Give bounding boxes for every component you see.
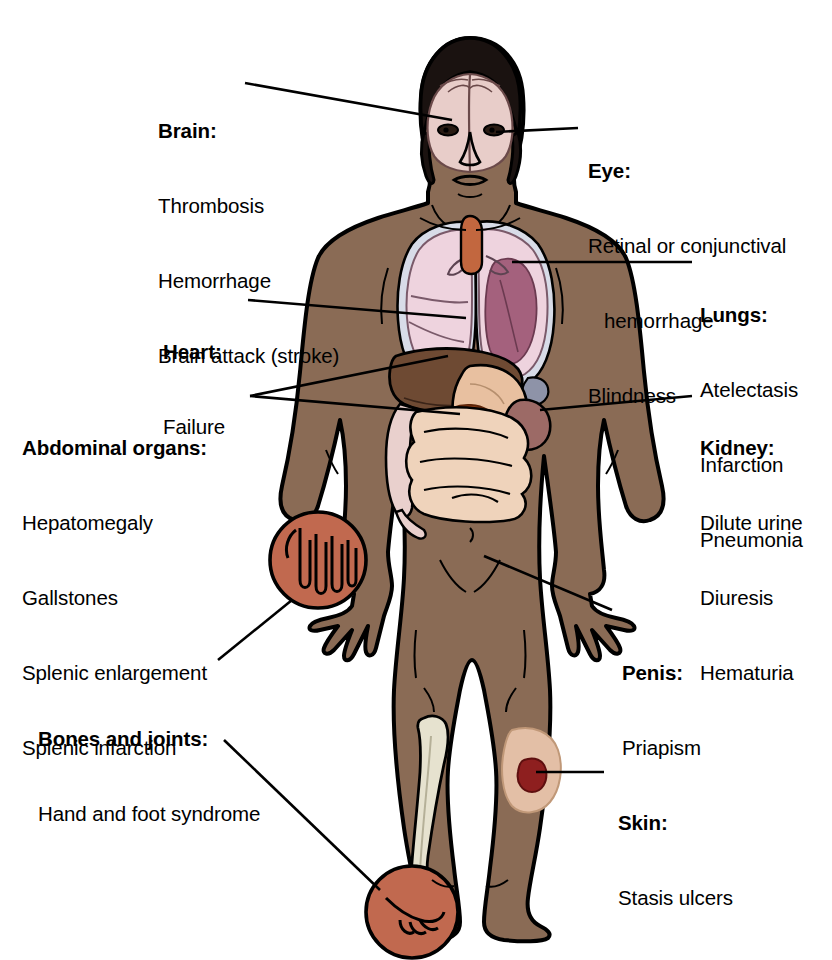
callout-skin-title: Skin:: [618, 810, 733, 835]
callout-skin-line-0: Stasis ulcers: [618, 885, 733, 910]
lower-leg-ulcer: [502, 728, 561, 812]
pupil-right: [489, 127, 494, 132]
callout-abdominal-organs-title: Abdominal organs:: [22, 435, 207, 460]
brain-central-sulcus: [469, 75, 470, 172]
foot-joint-circle: [366, 866, 458, 958]
pupil-left: [443, 127, 448, 132]
callout-kidney-line-1: Diuresis: [700, 585, 803, 610]
small-intestine: [406, 407, 531, 522]
callout-heart-title: Heart:: [163, 339, 225, 364]
callout-bones-and-joints-line-0: Hand and foot syndrome: [38, 801, 260, 826]
ulcer-center: [518, 758, 547, 792]
lung-infarction: [485, 259, 536, 365]
callout-abdominal-organs-line-0: Hepatomegaly: [22, 510, 207, 535]
callout-skin: Skin: Stasis ulcers: [618, 760, 733, 960]
callout-penis-title: Penis:: [622, 660, 701, 685]
callout-kidney-title: Kidney:: [700, 435, 803, 460]
callout-penis-line-0: Priapism: [622, 735, 701, 760]
callout-bones-and-joints-title: Bones and joints:: [38, 726, 260, 751]
callout-abdominal-organs-line-1: Gallstones: [22, 585, 207, 610]
brain-region: [428, 74, 513, 172]
callout-brain-line-0: Thrombosis: [158, 193, 339, 218]
callout-kidney-line-2: Hematuria: [700, 660, 803, 685]
callout-lungs-title: Lungs:: [700, 302, 803, 327]
trachea: [461, 216, 482, 274]
callout-bones-and-joints: Bones and joints: Hand and foot syndrome: [38, 676, 260, 876]
callout-eye-title: Eye:: [588, 158, 786, 183]
leader-bones: [218, 600, 292, 660]
callout-kidney: Kidney: Dilute urine Diuresis Hematuria: [700, 385, 803, 735]
callout-brain-title: Brain:: [158, 118, 339, 143]
diagram-canvas: Brain: Thrombosis Hemorrhage Brain attac…: [0, 0, 832, 960]
callout-kidney-line-0: Dilute urine: [700, 510, 803, 535]
